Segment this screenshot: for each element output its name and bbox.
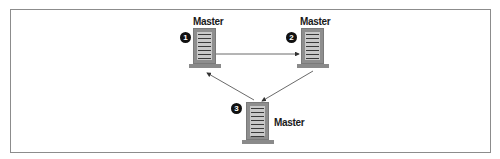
number-badge-icon: 3 — [231, 103, 242, 114]
server-icon — [193, 28, 216, 64]
node-label: Master — [193, 16, 223, 27]
server-icon — [246, 102, 269, 140]
node-label: Master — [300, 16, 330, 27]
arrow-2-to-3 — [262, 71, 313, 101]
number-badge-icon: 1 — [180, 32, 191, 43]
number-badge-icon: 2 — [286, 32, 297, 43]
server-icon — [301, 28, 324, 64]
server-base — [297, 64, 329, 68]
node-label: Master — [274, 117, 304, 128]
server-base — [242, 140, 274, 144]
arrow-3-to-1 — [207, 73, 254, 100]
server-base — [189, 64, 221, 68]
